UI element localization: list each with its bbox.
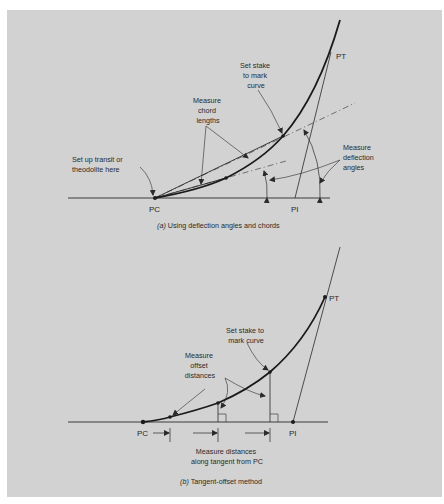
pi-point — [291, 420, 295, 424]
stake-point-1 — [168, 415, 172, 419]
pc-point — [141, 420, 145, 424]
circular-curve — [155, 20, 340, 198]
curve-layout-diagram: PC PI PT Set up transit or theodolite he… — [0, 0, 444, 504]
stake-point-3 — [268, 370, 272, 374]
stake-leader-arrow — [247, 343, 268, 370]
offset-note: Measure offset distances — [185, 351, 216, 380]
offset-leader-arrow-2 — [221, 378, 228, 408]
pc-label: PC — [149, 205, 160, 214]
back-tangent-line — [293, 247, 340, 422]
right-angle-mark-1 — [218, 414, 226, 422]
setup-note: Set up transit or theodolite here — [72, 155, 125, 174]
pc-point — [153, 196, 157, 200]
pt-label: PT — [336, 52, 346, 61]
pc-label: PC — [137, 429, 148, 438]
stake-point-2 — [216, 401, 220, 405]
stake-note: Set stake to mark curve — [240, 61, 272, 90]
panel-b-tangent-offset: PC PI PT Set stake to mark curve Measure… — [68, 247, 340, 486]
pt-point — [323, 295, 327, 299]
panel-a-deflection-angles: PC PI PT Set up transit or theodolite he… — [68, 20, 376, 230]
stake-leader-arrow — [258, 90, 282, 133]
chord-leader-arrow-1 — [201, 126, 206, 184]
chord-leader-arrow-2 — [206, 126, 248, 158]
chord-note: Measure chord lengths — [193, 96, 223, 125]
pi-label: PI — [289, 429, 297, 438]
pi-label: PI — [291, 205, 299, 214]
deflect-leader-arrow-2 — [320, 160, 340, 183]
back-tangent-line — [295, 52, 331, 198]
setup-leader-arrow — [140, 167, 153, 195]
panel-a-caption: (a) Using deflection angles and chords — [157, 221, 280, 230]
stake-point-2 — [281, 134, 285, 138]
right-angle-mark-2 — [270, 414, 278, 422]
deflection-angle-arc-2 — [304, 130, 320, 198]
deflection-note: Measure deflection angles — [343, 143, 376, 172]
along-tangent-note: Measure distances along tangent from PC — [191, 447, 263, 466]
stake-point-1 — [224, 176, 228, 180]
pt-label: PT — [329, 294, 339, 303]
panel-b-caption: (b) Tangent-offset method — [180, 477, 262, 486]
deflection-angle-arc-1 — [264, 171, 267, 198]
stake-note: Set stake to mark curve — [226, 326, 266, 345]
